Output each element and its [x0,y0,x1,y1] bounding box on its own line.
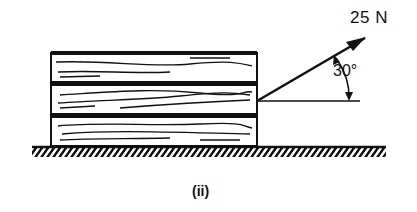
angle-label: 30° [333,62,357,80]
figure-caption: (ii) [192,183,209,199]
force-label: 25 N [350,8,388,28]
ground-surface [32,147,386,157]
diagram-canvas [0,0,417,212]
plank-stack [51,51,257,146]
